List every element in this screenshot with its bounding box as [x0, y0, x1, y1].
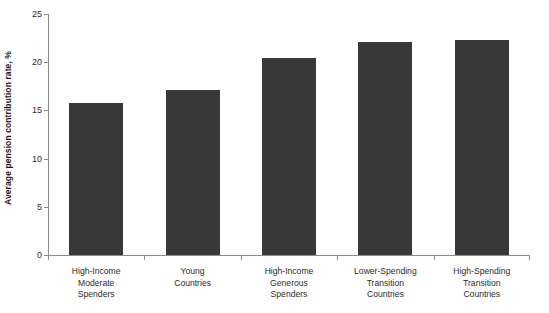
x-category-label-5: High-Spending Transition Countries — [434, 266, 530, 301]
bar-high-income-generous-spenders — [262, 58, 316, 255]
x-category-line: Spenders — [241, 289, 337, 301]
bar-chart-figure: Average pension contribution rate, % 0 5… — [0, 0, 549, 313]
y-axis-line — [48, 14, 49, 255]
x-tick-mark — [337, 255, 338, 260]
x-category-line: High-Income — [241, 266, 337, 278]
y-tick-mark — [44, 110, 48, 111]
x-category-line: Generous — [241, 278, 337, 290]
x-category-line: Countries — [434, 289, 530, 301]
x-category-label-3: High-Income Generous Spenders — [241, 266, 337, 301]
x-tick-mark — [48, 255, 49, 260]
y-tick-label: 20 — [32, 57, 42, 67]
x-category-label-4: Lower-Spending Transition Countries — [337, 266, 433, 301]
plot-area: 0 5 10 15 20 25 — [48, 14, 530, 255]
y-tick-label: 15 — [32, 105, 42, 115]
y-axis-title: Average pension contribution rate, % — [0, 0, 16, 255]
x-category-line: Lower-Spending — [337, 266, 433, 278]
bar-high-spending-transition-countries — [455, 40, 509, 255]
x-category-label-2: Young Countries — [144, 266, 240, 289]
x-category-line: Young — [144, 266, 240, 278]
x-tick-mark — [144, 255, 145, 260]
y-tick-label: 10 — [32, 154, 42, 164]
x-category-line: Transition — [337, 278, 433, 290]
x-category-line: Transition — [434, 278, 530, 290]
x-category-line: High-Spending — [434, 266, 530, 278]
x-category-line: High-Income — [48, 266, 144, 278]
y-tick-mark — [44, 62, 48, 63]
x-category-line: Moderate — [48, 278, 144, 290]
bar-young-countries — [166, 90, 220, 255]
x-tick-mark — [529, 255, 530, 260]
y-tick-label: 25 — [32, 9, 42, 19]
y-tick-label: 5 — [37, 202, 42, 212]
bar-high-income-moderate-spenders — [69, 103, 123, 255]
x-category-label-1: High-Income Moderate Spenders — [48, 266, 144, 301]
y-tick-mark — [44, 207, 48, 208]
x-tick-mark — [434, 255, 435, 260]
x-axis-line — [48, 255, 530, 256]
y-tick-label: 0 — [37, 250, 42, 260]
y-tick-mark — [44, 159, 48, 160]
x-category-line: Countries — [144, 278, 240, 290]
x-category-line: Spenders — [48, 289, 144, 301]
y-tick-mark — [44, 14, 48, 15]
x-tick-mark — [241, 255, 242, 260]
bar-lower-spending-transition-countries — [358, 42, 412, 255]
x-category-line: Countries — [337, 289, 433, 301]
y-axis-title-text: Average pension contribution rate, % — [3, 51, 13, 205]
